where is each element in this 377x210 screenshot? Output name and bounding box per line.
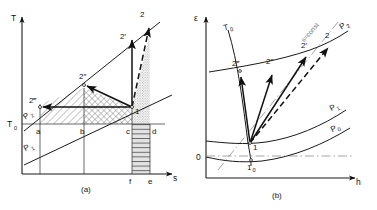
- panel-b-isentrope-line: [218, 22, 338, 170]
- panel-b-t0-label: T: [223, 23, 230, 33]
- panel-b-y-axis-label: ε: [194, 13, 198, 23]
- panel-b-point-2ppp: [239, 70, 242, 73]
- panel-b-label-2p: 2′: [301, 41, 307, 50]
- panel-b-isobar-p0-curve: [206, 128, 350, 162]
- panel-b-t0-sub: 0: [229, 26, 233, 33]
- panel-b-label-1-0: 1: [247, 163, 252, 172]
- panel-a-point-1: [131, 106, 134, 109]
- panel-a-y-axis-label: T: [11, 13, 16, 23]
- panel-a-tick-a: a: [36, 127, 41, 136]
- panel-b-point-1-0: [250, 159, 253, 162]
- panel-b-x-axis-label: h: [356, 177, 361, 187]
- thermodynamic-figure: T s T 0 P 2 P 1 1 2 2′ 2″ 2‴ a b c d: [0, 0, 377, 210]
- panel-a-t0-sub: 0: [14, 125, 17, 131]
- panel-b-isobar-p1-curve: [206, 110, 346, 144]
- panel-b-s-const-label: s=const: [300, 21, 320, 43]
- panel-a-tick-c: c: [126, 127, 130, 136]
- panel-a-point-2ppp: [39, 106, 42, 109]
- panel-a-label-2pp: 2″: [79, 72, 86, 81]
- panel-a-t0-label: T: [7, 119, 12, 129]
- panel-a: T s T 0 P 2 P 1 1 2 2′ 2″ 2‴ a b c d: [7, 10, 177, 194]
- panel-a-label-2p: 2′: [120, 32, 126, 41]
- panel-a-tick-b: b: [80, 127, 85, 136]
- horizontal-hatched-area: [132, 124, 150, 173]
- panel-a-p1-label: P: [22, 143, 31, 153]
- panel-a-caption: (a): [81, 185, 91, 194]
- figure-svg: T s T 0 P 2 P 1 1 2 2′ 2″ 2‴ a b c d: [0, 0, 377, 210]
- panel-a-tick-f: f: [129, 177, 132, 186]
- panel-a-x-axis-label: s: [173, 173, 177, 183]
- panel-b-arrow-1-to-2ppp: [241, 77, 250, 143]
- panel-b-zero-label: 0: [196, 152, 201, 162]
- panel-b-label-1-0-sub: 0: [253, 167, 256, 173]
- panel-a-label-2ppp: 2‴: [29, 96, 36, 105]
- panel-b-point-1: [249, 142, 252, 145]
- panel-b-arrow-1-to-2pp: [250, 75, 272, 143]
- panel-a-tick-d: d: [152, 127, 156, 136]
- panel-b-label-2pp: 2″: [266, 57, 273, 66]
- panel-b-label-2ppp: 2‴: [232, 59, 239, 68]
- panel-a-point-2pp: [83, 84, 86, 87]
- panel-b: ε h 0 T 0 s=const P 2 P 1 P: [194, 13, 361, 200]
- panel-a-label-1: 1: [135, 107, 140, 116]
- cross-hatched-area: [84, 88, 132, 124]
- diagonal-hatched-area: [40, 88, 84, 124]
- panel-a-tick-e: e: [148, 177, 153, 186]
- panel-b-t0-curve: [228, 30, 251, 166]
- panel-b-arrow-1-to-2p: [250, 57, 306, 143]
- panel-b-caption: (b): [272, 191, 282, 200]
- panel-b-label-2: 2: [325, 31, 330, 40]
- panel-a-label-2: 2: [140, 10, 145, 19]
- panel-b-label-1: 1: [253, 143, 258, 152]
